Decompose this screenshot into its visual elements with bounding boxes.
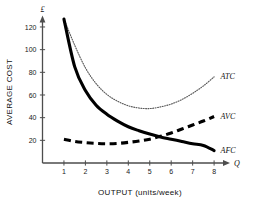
y-axis-unit-symbol: £ (41, 5, 45, 14)
x-tick-label: 2 (83, 168, 87, 175)
x-axis-title: OUTPUT (units/week) (98, 188, 182, 197)
curve-label-group: ATCAVCAFC (220, 72, 237, 155)
y-axis-title: AVERAGE COST (5, 59, 14, 125)
curve-label-afc: AFC (220, 146, 237, 155)
x-tick-label: 5 (148, 168, 152, 175)
x-tick-label: 1 (62, 168, 66, 175)
x-tick-label: 7 (191, 168, 195, 175)
afc-curve (64, 19, 214, 150)
y-tick-label: 40 (29, 114, 37, 121)
y-tick-label: 80 (29, 69, 37, 76)
x-tick-label: 8 (212, 168, 216, 175)
cost-curves-chart: £ AVERAGE COST OUTPUT (units/week) Q 204… (0, 0, 261, 216)
y-axis-arrowhead (40, 16, 46, 23)
x-axis (43, 160, 231, 166)
y-tick-label: 20 (29, 137, 37, 144)
y-tick-label: 100 (25, 46, 37, 53)
x-axis-arrow-label: Q (234, 159, 240, 168)
curve-label-avc: AVC (220, 112, 236, 121)
curve-label-atc: ATC (220, 72, 236, 81)
chart-svg: £ AVERAGE COST OUTPUT (units/week) Q 204… (0, 0, 261, 216)
x-tick-label: 4 (126, 168, 130, 175)
y-tick-label: 120 (25, 24, 37, 31)
x-axis-arrowhead (223, 160, 230, 166)
x-tick-label: 3 (105, 168, 109, 175)
x-tick-label: 6 (169, 168, 173, 175)
y-axis (40, 16, 46, 164)
y-tick-label: 60 (29, 92, 37, 99)
